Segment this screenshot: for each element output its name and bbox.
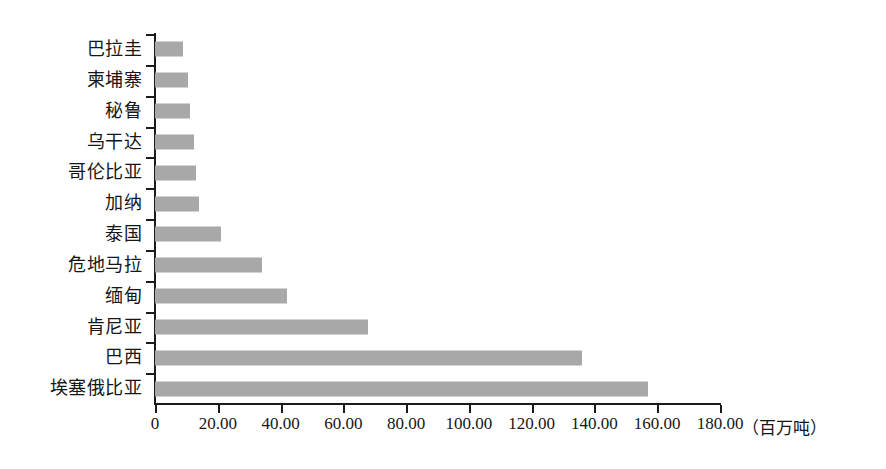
bar-row xyxy=(155,157,720,188)
bar-row xyxy=(155,65,720,96)
value-tick xyxy=(281,405,283,413)
value-tick-label: 180.00 xyxy=(697,414,744,434)
bar-row xyxy=(155,373,720,404)
value-tick xyxy=(532,405,534,413)
category-tick xyxy=(146,157,155,159)
category-label: 巴拉圭 xyxy=(87,34,143,65)
value-tick-label: 0 xyxy=(151,414,160,434)
bar-row xyxy=(155,34,720,65)
category-tick xyxy=(146,34,155,36)
category-tick xyxy=(146,188,155,190)
category-label: 肯尼亚 xyxy=(87,312,143,343)
category-tick xyxy=(146,281,155,283)
bar-chart: 巴拉圭柬埔寨秘鲁乌干达哥伦比亚加纳泰国危地马拉缅甸肯尼亚巴西埃塞俄比亚 020.… xyxy=(0,0,886,469)
bar xyxy=(155,227,221,242)
category-label: 埃塞俄比亚 xyxy=(50,373,143,404)
bar-rows xyxy=(155,34,720,404)
category-label: 泰国 xyxy=(105,219,142,250)
bar-row xyxy=(155,342,720,373)
category-label: 乌干达 xyxy=(87,127,143,158)
bar xyxy=(155,319,368,334)
bar xyxy=(155,289,287,304)
value-tick-label: 160.00 xyxy=(634,414,681,434)
plot-area xyxy=(155,34,720,404)
bar xyxy=(155,165,196,180)
category-tick xyxy=(146,250,155,252)
category-tick xyxy=(146,127,155,129)
bar-row xyxy=(155,126,720,157)
category-tick xyxy=(146,342,155,344)
category-tick xyxy=(146,219,155,221)
category-label: 巴西 xyxy=(105,342,142,373)
category-axis-labels: 巴拉圭柬埔寨秘鲁乌干达哥伦比亚加纳泰国危地马拉缅甸肯尼亚巴西埃塞俄比亚 xyxy=(0,34,148,404)
category-tick xyxy=(146,373,155,375)
bar-row xyxy=(155,311,720,342)
bar-row xyxy=(155,96,720,127)
category-tick xyxy=(146,65,155,67)
value-tick xyxy=(594,405,596,413)
bar xyxy=(155,196,199,211)
value-tick-label: 140.00 xyxy=(571,414,618,434)
bar-row xyxy=(155,188,720,219)
bar-row xyxy=(155,281,720,312)
category-label: 柬埔寨 xyxy=(87,65,143,96)
category-tick xyxy=(146,96,155,98)
bar xyxy=(155,73,188,88)
bar xyxy=(155,134,194,149)
bar xyxy=(155,104,190,119)
category-label: 哥伦比亚 xyxy=(68,157,142,188)
category-tick xyxy=(146,312,155,314)
x-axis-unit-label: （百万吨） xyxy=(742,414,827,439)
bar-row xyxy=(155,250,720,281)
bar xyxy=(155,350,582,365)
bar xyxy=(155,42,183,57)
category-label: 加纳 xyxy=(105,188,142,219)
value-tick xyxy=(657,405,659,413)
value-tick-label: 80.00 xyxy=(387,414,425,434)
value-tick-label: 20.00 xyxy=(199,414,237,434)
value-tick-label: 100.00 xyxy=(446,414,493,434)
value-tick xyxy=(406,405,408,413)
value-tick xyxy=(469,405,471,413)
bar xyxy=(155,381,648,396)
value-tick xyxy=(218,405,220,413)
category-label: 秘鲁 xyxy=(105,96,142,127)
value-tick xyxy=(155,405,157,413)
bar xyxy=(155,258,262,273)
category-label: 缅甸 xyxy=(105,281,142,312)
bar-row xyxy=(155,219,720,250)
value-tick-label: 60.00 xyxy=(324,414,362,434)
category-label: 危地马拉 xyxy=(68,250,142,281)
value-tick xyxy=(720,405,722,413)
value-tick xyxy=(343,405,345,413)
value-tick-label: 40.00 xyxy=(261,414,299,434)
value-tick-label: 120.00 xyxy=(508,414,555,434)
